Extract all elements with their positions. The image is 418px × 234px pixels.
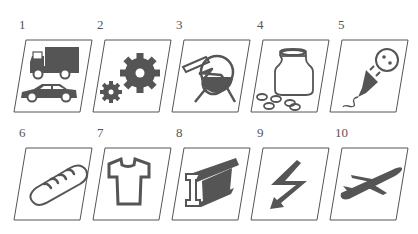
tile-frame-3 xyxy=(172,40,250,112)
tshirt-icon xyxy=(109,159,149,204)
icon-grid xyxy=(0,0,418,234)
flask-icon xyxy=(183,56,235,102)
airplane-icon xyxy=(341,167,402,199)
steel-beam-icon xyxy=(186,158,239,207)
tile-frame-7 xyxy=(93,148,171,220)
jar-and-pills-icon xyxy=(257,49,313,110)
plug-and-socket-icon xyxy=(343,49,398,107)
gears-icon xyxy=(100,53,160,103)
lightning-bolt-icon xyxy=(270,160,307,209)
truck-and-car-icon xyxy=(21,47,79,102)
bread-icon xyxy=(30,165,87,205)
